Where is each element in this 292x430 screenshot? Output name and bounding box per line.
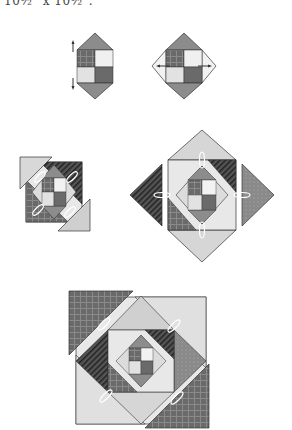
step-5-unit bbox=[69, 291, 209, 428]
quilt-assembly-diagram bbox=[0, 0, 292, 430]
step-2-unit bbox=[152, 33, 216, 99]
step-1-unit bbox=[72, 33, 114, 99]
step-3-unit bbox=[20, 157, 90, 231]
step-4-unit bbox=[130, 130, 274, 262]
